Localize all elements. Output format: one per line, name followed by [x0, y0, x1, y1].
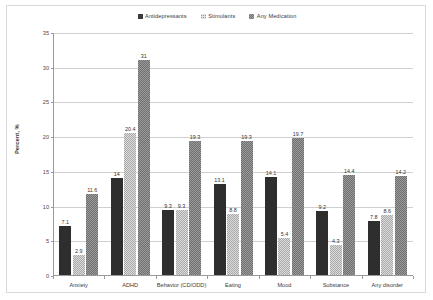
- y-axis-tick-mark: [51, 207, 54, 208]
- bar: 31: [138, 60, 150, 275]
- bar: 2.9: [73, 255, 85, 275]
- legend-label-antidepressants: Antidepressants: [145, 13, 187, 19]
- bar: 14.2: [395, 176, 407, 275]
- y-axis-tick-label: 10: [31, 204, 49, 210]
- legend-item-any-medication: Any Medication: [249, 13, 296, 19]
- bar: 9.3: [162, 210, 174, 275]
- x-axis-category-label: Eating: [225, 282, 241, 288]
- y-axis-tick-mark: [51, 137, 54, 138]
- bar-value-label: 9.2: [319, 204, 327, 210]
- bar: 14.1: [265, 177, 277, 275]
- bar: 7.1: [59, 226, 71, 275]
- bar: 19.3: [241, 141, 253, 275]
- y-axis-tick-mark: [51, 172, 54, 173]
- bar-value-label: 19.7: [293, 131, 304, 137]
- y-axis-tick-mark: [51, 276, 54, 277]
- y-axis-tick-labels: 05101520253035: [29, 33, 49, 276]
- x-axis-tick-mark: [104, 276, 105, 279]
- x-axis-tick-mark: [413, 276, 414, 279]
- bar-value-label: 14.2: [396, 169, 407, 175]
- x-axis-category-label: Mood: [277, 282, 291, 288]
- bar-value-label: 13.1: [214, 177, 225, 183]
- bar-value-label: 11.6: [87, 187, 97, 193]
- legend-label-any-medication: Any Medication: [257, 13, 297, 19]
- y-axis-tick-label: 0: [31, 273, 49, 279]
- y-axis-tick-mark: [51, 33, 54, 34]
- y-axis-tick-label: 5: [31, 238, 49, 244]
- bar-value-label: 7.1: [61, 219, 69, 225]
- y-axis-tick-label: 15: [31, 169, 49, 175]
- bar: 13.1: [214, 184, 226, 275]
- x-axis-category-label: Substance: [323, 282, 349, 288]
- plot-area: 7.12.911.61420.4319.39.319.313.18.819.31…: [53, 33, 413, 276]
- x-axis-tick-mark: [362, 276, 363, 279]
- bar-value-label: 31: [141, 53, 147, 59]
- bar: 7.8: [368, 221, 380, 275]
- y-axis-tick-label: 30: [31, 65, 49, 71]
- y-axis-tick-label: 25: [31, 99, 49, 105]
- x-axis-tick-mark: [310, 276, 311, 279]
- x-axis-category-label: Anxiety: [70, 282, 88, 288]
- bar: 5.4: [278, 238, 290, 275]
- bar: 14.4: [343, 175, 355, 275]
- y-axis-tick-label: 20: [31, 134, 49, 140]
- bar-value-label: 8.6: [384, 208, 392, 214]
- bar: 4.3: [330, 245, 342, 275]
- bar: 14: [111, 178, 123, 275]
- x-axis-tick-mark: [156, 276, 157, 279]
- y-axis-title: Percent, %: [14, 124, 20, 154]
- chart-container: Antidepressants Stimulants Any Medicatio…: [6, 5, 426, 293]
- bar-value-label: 9.3: [178, 203, 186, 209]
- legend-label-stimulants: Stimulants: [208, 13, 235, 19]
- y-axis-tick-mark: [51, 102, 54, 103]
- bar: 9.3: [176, 210, 188, 275]
- x-axis-category-label: Any disorder: [372, 282, 403, 288]
- legend-item-stimulants: Stimulants: [201, 13, 236, 19]
- x-axis-category-label: ADHD: [122, 282, 138, 288]
- x-axis-line: [53, 275, 413, 276]
- bar: 19.3: [189, 141, 201, 275]
- bar: 20.4: [124, 133, 136, 275]
- chart-legend: Antidepressants Stimulants Any Medicatio…: [7, 13, 427, 19]
- bar-value-label: 14.1: [266, 170, 277, 176]
- bar-value-label: 14: [114, 171, 120, 177]
- x-axis-tick-mark: [259, 276, 260, 279]
- bar-group: 7.88.614.2: [368, 33, 407, 275]
- x-axis-tick-mark: [207, 276, 208, 279]
- legend-item-antidepressants: Antidepressants: [138, 13, 187, 19]
- y-axis-tick-mark: [51, 241, 54, 242]
- bar: 8.6: [381, 215, 393, 275]
- bar-value-label: 9.3: [164, 203, 172, 209]
- bar-group: 9.24.314.4: [316, 33, 355, 275]
- bar-value-label: 19.3: [190, 134, 201, 140]
- x-axis-category-label: Behavior (CD/ODD): [157, 282, 206, 288]
- bar-value-label: 4.3: [332, 238, 340, 244]
- legend-swatch-icon: [138, 14, 143, 19]
- y-axis-line: [53, 33, 54, 276]
- bar: 11.6: [86, 194, 98, 275]
- y-axis-tick-mark: [51, 68, 54, 69]
- bar: 19.7: [292, 138, 304, 275]
- y-axis-tick-label: 35: [31, 30, 49, 36]
- legend-swatch-icon: [249, 14, 254, 19]
- bar-value-label: 5.4: [281, 231, 289, 237]
- legend-swatch-icon: [201, 14, 206, 19]
- bar-value-label: 8.8: [229, 207, 237, 213]
- bar-group: 13.18.819.3: [214, 33, 253, 275]
- bar: 9.2: [316, 211, 328, 275]
- bar: 8.8: [227, 214, 239, 275]
- bar-group: 7.12.911.6: [59, 33, 98, 275]
- bar-group: 1420.431: [111, 33, 150, 275]
- bar-value-label: 19.3: [241, 134, 252, 140]
- bar-group: 14.15.419.7: [265, 33, 304, 275]
- bar-value-label: 20.4: [125, 126, 136, 132]
- bar-group: 9.39.319.3: [162, 33, 201, 275]
- bar-value-label: 7.8: [370, 214, 378, 220]
- bar-value-label: 2.9: [75, 248, 83, 254]
- bar-value-label: 14.4: [344, 168, 355, 174]
